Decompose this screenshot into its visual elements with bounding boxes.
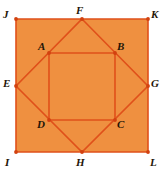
vertex-dot-l [146, 150, 150, 154]
outer-square-jkli [16, 19, 148, 152]
geometry-figure: JFKABEGDCIHL [0, 0, 166, 172]
geometry-canvas [0, 0, 166, 172]
vertex-dot-c [113, 118, 117, 122]
vertex-dot-g [146, 84, 150, 88]
vertex-dot-d [47, 118, 51, 122]
vertex-dot-j [14, 17, 18, 21]
vertex-dot-a [47, 51, 51, 55]
vertex-dot-f [80, 17, 84, 21]
vertex-dot-e [14, 84, 18, 88]
vertex-dot-h [80, 150, 84, 154]
vertex-dot-b [113, 51, 117, 55]
vertex-dot-k [146, 17, 150, 21]
vertex-dot-i [14, 150, 18, 154]
